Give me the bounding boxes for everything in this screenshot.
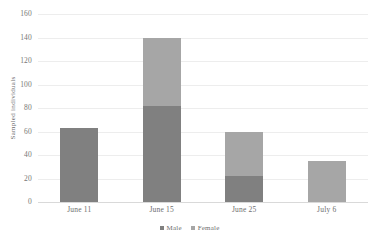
y-axis-tick: 160 xyxy=(20,10,32,18)
y-axis-tick: 20 xyxy=(24,175,32,183)
bar-stack xyxy=(308,161,346,202)
legend: MaleFemale xyxy=(0,224,379,232)
plot-area xyxy=(38,14,368,202)
bar-stack xyxy=(225,132,263,202)
bar-group xyxy=(38,14,121,202)
y-axis-tick-labels: 020406080100120140160 xyxy=(0,14,36,202)
bar-segment-male xyxy=(225,176,263,202)
y-axis-tick: 60 xyxy=(24,128,32,136)
y-axis-tick: 140 xyxy=(20,34,32,42)
bar-segment-female xyxy=(225,132,263,177)
y-axis-tick: 120 xyxy=(20,57,32,65)
bar-segment-female xyxy=(143,38,181,106)
y-axis-tick: 0 xyxy=(28,198,32,206)
bar-segment-male xyxy=(143,106,181,202)
legend-label: Female xyxy=(198,224,220,232)
bar-stack xyxy=(143,38,181,202)
bar-series-group xyxy=(38,14,368,202)
bar-stack xyxy=(60,128,98,202)
bar-group xyxy=(286,14,369,202)
gridline xyxy=(38,202,368,203)
legend-label: Male xyxy=(167,224,182,232)
y-axis-tick: 100 xyxy=(20,81,32,89)
legend-swatch-icon xyxy=(160,226,165,231)
bar-group xyxy=(203,14,286,202)
bar-group xyxy=(121,14,204,202)
x-axis-tick-labels: June 11June 15June 25July 6 xyxy=(38,205,368,214)
x-axis-tick: June 15 xyxy=(121,205,204,214)
bar-segment-female xyxy=(308,161,346,202)
legend-swatch-icon xyxy=(191,226,196,231)
y-axis-tick: 80 xyxy=(24,104,32,112)
legend-item-female: Female xyxy=(191,224,220,232)
x-axis-tick: June 25 xyxy=(203,205,286,214)
x-axis-tick: July 6 xyxy=(286,205,369,214)
y-axis-tick: 40 xyxy=(24,151,32,159)
legend-item-male: Male xyxy=(160,224,182,232)
bar-chart: Sampled individuals 02040608010012014016… xyxy=(0,0,379,242)
x-axis-tick: June 11 xyxy=(38,205,121,214)
bar-segment-male xyxy=(60,128,98,202)
